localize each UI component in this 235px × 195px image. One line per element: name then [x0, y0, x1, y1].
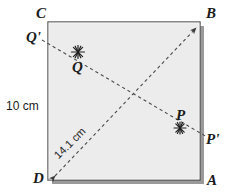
point-label-q-prime: Q': [26, 30, 41, 45]
side-length-label: 10 cm: [6, 100, 39, 112]
geometry-figure: C B D A Q' Q P P' 10 cm 14.1 cm: [0, 0, 235, 195]
square-shape: [48, 22, 200, 180]
vertex-label-d: D: [33, 171, 44, 186]
point-label-p-prime: P': [206, 132, 219, 147]
vertex-label-a: A: [207, 173, 217, 188]
point-label-q: Q: [72, 60, 83, 75]
star-mark-q: [72, 46, 85, 59]
point-label-p: P: [176, 108, 185, 123]
star-mark-p: [174, 122, 186, 134]
vertex-label-c: C: [36, 6, 46, 21]
vertex-label-b: B: [206, 6, 216, 21]
